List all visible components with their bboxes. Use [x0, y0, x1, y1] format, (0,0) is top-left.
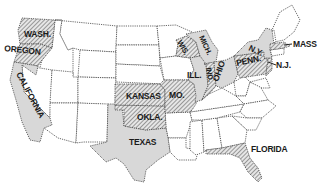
label-kansas: KANSAS [126, 91, 161, 101]
label-ill: ILL. [187, 70, 201, 80]
label-nj: N.J. [276, 60, 291, 70]
label-mass: MASS [293, 39, 317, 49]
label-texas: TEXAS [129, 137, 157, 147]
label-mo: MO. [169, 90, 184, 100]
state-massachusetts [270, 42, 290, 50]
label-florida: FLORIDA [251, 144, 287, 154]
label-okla: OKLA. [137, 112, 162, 122]
us-states-map: WASH. OREGON CALIFORNIA KANSAS MO. OKLA.… [0, 0, 323, 189]
label-wash: WASH. [24, 29, 51, 39]
